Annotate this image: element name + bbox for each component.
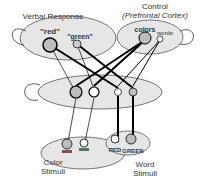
unit-hidden-2 [89, 87, 99, 97]
unit-color-green [80, 139, 88, 147]
green-word-label: GREEN [120, 147, 146, 156]
unit-hidden-4 [129, 88, 137, 96]
color-stimuli-label: ColorStimuli [38, 158, 68, 176]
red-color-bar [62, 150, 72, 153]
network-diagram [0, 0, 202, 183]
verbal-response-label: Verbal Response [18, 12, 88, 21]
word-stimuli-label: WordStimuli [130, 160, 160, 178]
green-color-bar [79, 148, 89, 151]
unit-word-green [126, 134, 136, 144]
unit-green-response [73, 40, 81, 48]
unit-hidden-1 [70, 86, 82, 98]
control-sublabel: (Prefrontal Cortex) [117, 11, 193, 20]
red-response-label: "red" [38, 27, 62, 36]
unit-color-red [62, 139, 72, 149]
unit-hidden-3 [115, 89, 122, 96]
control-label: Control [125, 2, 185, 11]
words-label: words [154, 29, 176, 38]
unit-red-response [43, 38, 57, 52]
unit-word-red [111, 135, 119, 143]
green-response-label: "green" [66, 32, 94, 41]
